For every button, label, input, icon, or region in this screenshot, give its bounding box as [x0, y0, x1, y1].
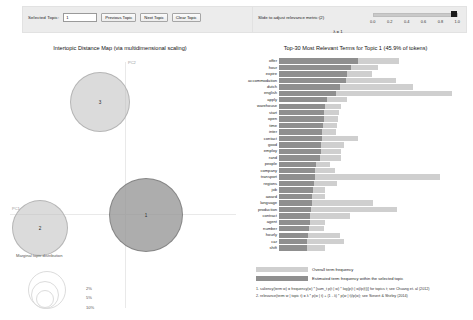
- topic-control-row: Selected Topic: Previous Topic Next Topi…: [23, 11, 253, 24]
- bar-row[interactable]: contact: [238, 135, 470, 141]
- topic-bubble-label-3: 3: [99, 100, 102, 105]
- pyldavis-app: Selected Topic: Previous Topic Next Topi…: [0, 0, 473, 320]
- term-label: contract: [262, 213, 277, 218]
- bar-topic-frequency: [279, 239, 307, 244]
- term-label: start: [269, 110, 277, 115]
- bar-topic-frequency: [279, 123, 323, 128]
- bar-topic-frequency: [279, 200, 312, 205]
- clear-topic-button[interactable]: Clear Topic: [172, 13, 201, 22]
- term-label: number: [263, 226, 277, 231]
- bar-topic-frequency: [279, 194, 312, 199]
- bar-row[interactable]: language: [238, 200, 470, 206]
- bar-row[interactable]: job: [238, 187, 470, 193]
- bar-topic-frequency: [279, 207, 311, 212]
- term-label: award: [266, 194, 277, 199]
- pc2-axis-label: PC2: [128, 60, 136, 65]
- legend-label-topic: Estimated term frequency within the sele…: [312, 276, 403, 281]
- bar-topic-frequency: [279, 149, 321, 154]
- bar-row[interactable]: english: [238, 90, 470, 96]
- bar-topic-frequency: [279, 104, 325, 109]
- term-label: production: [258, 207, 277, 212]
- footnote-saliency: 1. saliency(term w) = frequency(w) * [su…: [256, 287, 430, 291]
- bar-row[interactable]: time: [238, 123, 470, 129]
- bar-row[interactable]: offer: [238, 58, 470, 64]
- topic-bubble-2[interactable]: 2: [12, 200, 68, 256]
- bar-topic-frequency: [279, 168, 315, 173]
- bar-topic-frequency: [279, 91, 336, 96]
- legend-swatch-topic: [256, 276, 308, 282]
- size-circle-10pct: [28, 271, 66, 309]
- intertopic-map-title: Intertopic Distance Map (via multidimens…: [0, 45, 240, 51]
- bar-topic-frequency: [279, 213, 310, 218]
- bar-topic-frequency: [279, 226, 309, 231]
- bar-topic-frequency: [279, 129, 322, 134]
- topic-bubble-1[interactable]: 1: [109, 178, 183, 252]
- relevance-control-bar: Slide to adjust relevance metric:(2) λ =…: [252, 6, 467, 33]
- term-label: shift: [269, 245, 277, 250]
- intertopic-distance-map[interactable]: PC2 PC1 3 2 1 Marginal topic distributio…: [6, 56, 238, 314]
- term-label: expire: [266, 71, 277, 76]
- bar-row[interactable]: regions: [238, 181, 470, 187]
- bar-topic-frequency: [279, 174, 315, 179]
- term-label: rand: [269, 155, 277, 160]
- lambda-value: λ = 1: [333, 29, 342, 34]
- bar-row[interactable]: contract: [238, 213, 470, 219]
- bar-row[interactable]: car: [238, 239, 470, 245]
- term-label: dutch: [267, 84, 277, 89]
- bar-row[interactable]: agent: [238, 219, 470, 225]
- bar-row[interactable]: warehouse: [238, 103, 470, 109]
- term-label: employ: [264, 148, 277, 153]
- bubble-size-legend: 2% 5% 10%: [28, 262, 118, 312]
- bar-row[interactable]: people: [238, 161, 470, 167]
- bar-topic-frequency: [279, 116, 324, 121]
- term-label: transport: [261, 174, 277, 179]
- bar-topic-frequency: [279, 58, 358, 63]
- selected-topic-input[interactable]: [63, 13, 97, 22]
- bar-row[interactable]: award: [238, 193, 470, 199]
- slider-tick-2: 0.4: [404, 19, 409, 24]
- slider-tick-5: 1.0: [455, 19, 460, 24]
- bar-row[interactable]: transport: [238, 174, 470, 180]
- term-label: accommodation: [248, 78, 277, 83]
- bar-row[interactable]: number: [238, 226, 470, 232]
- previous-topic-button[interactable]: Previous Topic: [101, 13, 136, 22]
- bar-row[interactable]: hourly: [238, 232, 470, 238]
- bar-row[interactable]: open: [238, 116, 470, 122]
- bar-topic-frequency: [279, 110, 324, 115]
- bar-row[interactable]: employ: [238, 148, 470, 154]
- term-label: apply: [267, 97, 277, 102]
- bar-row[interactable]: hour: [238, 64, 470, 70]
- top-terms-bar-chart: offerhourexpireaccommodationdutchenglish…: [238, 58, 470, 316]
- bar-chart-legend: Overall term frequency Estimated term fr…: [256, 266, 403, 284]
- term-label: warehouse: [257, 103, 277, 108]
- bar-row[interactable]: inter: [238, 129, 470, 135]
- legend-label-overall: Overall term frequency: [312, 267, 353, 272]
- bar-row[interactable]: production: [238, 206, 470, 212]
- bar-row[interactable]: start: [238, 110, 470, 116]
- bar-row[interactable]: accommodation: [238, 77, 470, 83]
- bar-row[interactable]: good: [238, 142, 470, 148]
- relevance-slider-ticks: 0.0 0.2 0.4 0.6 0.8 1.0: [371, 19, 460, 27]
- term-label: agent: [267, 219, 277, 224]
- term-label: offer: [269, 58, 277, 63]
- slider-tick-3: 0.6: [421, 19, 426, 24]
- bar-row[interactable]: shift: [238, 245, 470, 251]
- bar-row[interactable]: company: [238, 168, 470, 174]
- term-label: people: [265, 161, 277, 166]
- term-label: open: [268, 116, 277, 121]
- bar-row[interactable]: apply: [238, 97, 470, 103]
- next-topic-button[interactable]: Next Topic: [140, 13, 167, 22]
- bar-row[interactable]: dutch: [238, 84, 470, 90]
- relevance-slider-handle[interactable]: [451, 11, 457, 17]
- relevance-slider-track[interactable]: [373, 13, 458, 18]
- bar-row[interactable]: expire: [238, 71, 470, 77]
- size-legend-label-2pct: 2%: [86, 286, 92, 291]
- bar-topic-frequency: [279, 84, 340, 89]
- topic-bubble-label-1: 1: [145, 213, 148, 218]
- bar-row[interactable]: rand: [238, 155, 470, 161]
- slider-tick-0: 0.0: [370, 19, 375, 24]
- top-terms-title: Top-30 Most Relevant Terms for Topic 1 (…: [238, 45, 473, 51]
- legend-swatch-overall: [256, 267, 308, 273]
- term-label: job: [272, 187, 277, 192]
- topic-bubble-3[interactable]: 3: [70, 72, 130, 132]
